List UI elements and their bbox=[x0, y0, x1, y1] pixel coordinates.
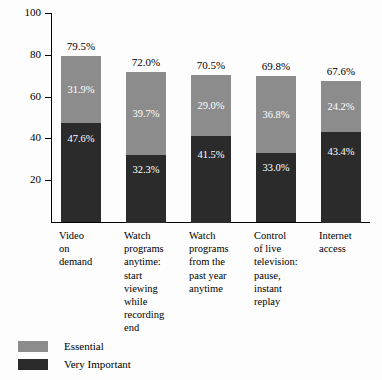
segment-value-very-important: 32.3% bbox=[126, 165, 166, 176]
category-label-line: Watch bbox=[124, 229, 184, 242]
y-axis-tick-80 bbox=[45, 55, 51, 56]
y-axis-tick-100 bbox=[45, 13, 51, 14]
legend-swatch-icon bbox=[18, 341, 48, 352]
bar-segment-essential: 29.0% bbox=[191, 75, 231, 136]
category-label-line: on bbox=[59, 242, 119, 255]
legend-item-1: Essential bbox=[18, 337, 131, 355]
category-label-4: Controlof livetelevision:pause,instantre… bbox=[254, 229, 314, 308]
bar-segment-very-important: 33.0% bbox=[256, 153, 296, 222]
bar-1: 31.9%47.6% bbox=[61, 56, 101, 222]
y-axis-tick-label-40: 40 bbox=[1, 132, 41, 143]
bar-segment-essential: 24.2% bbox=[321, 81, 361, 132]
category-label-line: Control bbox=[254, 229, 314, 242]
category-label-2: Watchprogramsanytime:startviewingwhilere… bbox=[124, 229, 184, 335]
category-label-line: programs bbox=[124, 242, 184, 255]
segment-value-essential: 29.0% bbox=[191, 100, 231, 111]
category-label-line: past year bbox=[189, 269, 249, 282]
stacked-bar-chart: 20406080100 31.9%47.6%79.5%39.7%32.3%72.… bbox=[0, 0, 382, 380]
category-label-line: end bbox=[124, 321, 184, 334]
bar-total-label-3: 70.5% bbox=[179, 60, 243, 71]
category-label-3: Watchprogramsfrom thepast yearanytime bbox=[189, 229, 249, 295]
bar-segment-essential: 31.9% bbox=[61, 56, 101, 123]
segment-value-essential: 36.8% bbox=[256, 109, 296, 120]
y-axis-tick-20 bbox=[45, 180, 51, 181]
legend-swatch-icon bbox=[18, 359, 48, 370]
category-label-line: access bbox=[319, 242, 379, 255]
y-axis-tick-label-20: 20 bbox=[1, 174, 41, 185]
bar-segment-very-important: 41.5% bbox=[191, 136, 231, 223]
y-axis-tick-60 bbox=[45, 97, 51, 98]
segment-value-very-important: 43.4% bbox=[321, 147, 361, 158]
bar-total-label-4: 69.8% bbox=[244, 61, 308, 72]
category-label-5: Internetaccess bbox=[319, 229, 379, 255]
bar-segment-essential: 36.8% bbox=[256, 76, 296, 153]
category-label-line: anytime: bbox=[124, 255, 184, 268]
category-label-line: of live bbox=[254, 242, 314, 255]
bar-segment-very-important: 47.6% bbox=[61, 123, 101, 222]
segment-value-very-important: 41.5% bbox=[191, 150, 231, 161]
bar-5: 24.2%43.4% bbox=[321, 81, 361, 222]
legend-label: Very Important bbox=[64, 359, 131, 370]
category-label-line: television: bbox=[254, 255, 314, 268]
segment-value-very-important: 47.6% bbox=[61, 134, 101, 145]
segment-value-essential: 39.7% bbox=[126, 108, 166, 119]
bar-3: 29.0%41.5% bbox=[191, 75, 231, 222]
category-label-line: pause, bbox=[254, 269, 314, 282]
category-label-line: Internet bbox=[319, 229, 379, 242]
category-label-1: Videoondemand bbox=[59, 229, 119, 269]
category-label-line: replay bbox=[254, 295, 314, 308]
bar-segment-essential: 39.7% bbox=[126, 72, 166, 155]
bar-total-label-5: 67.6% bbox=[309, 66, 373, 77]
bar-4: 36.8%33.0% bbox=[256, 76, 296, 222]
category-label-line: recording bbox=[124, 308, 184, 321]
legend-item-2: Very Important bbox=[18, 355, 131, 373]
bar-total-label-2: 72.0% bbox=[114, 57, 178, 68]
y-axis-tick-40 bbox=[45, 138, 51, 139]
segment-value-essential: 24.2% bbox=[321, 101, 361, 112]
y-axis-tick-label-100: 100 bbox=[1, 7, 41, 18]
category-label-line: viewing bbox=[124, 282, 184, 295]
chart-legend: EssentialVery Important bbox=[18, 337, 131, 373]
category-label-line: Watch bbox=[189, 229, 249, 242]
category-label-line: instant bbox=[254, 282, 314, 295]
bar-segment-very-important: 32.3% bbox=[126, 155, 166, 223]
bar-segment-very-important: 43.4% bbox=[321, 132, 361, 223]
category-label-line: Video bbox=[59, 229, 119, 242]
category-label-line: start bbox=[124, 269, 184, 282]
category-label-line: demand bbox=[59, 255, 119, 268]
category-label-line: while bbox=[124, 295, 184, 308]
y-axis-tick-label-60: 60 bbox=[1, 91, 41, 102]
bar-2: 39.7%32.3% bbox=[126, 72, 166, 222]
y-axis-tick-label-80: 80 bbox=[1, 49, 41, 60]
bar-total-label-1: 79.5% bbox=[49, 41, 113, 52]
category-label-line: from the bbox=[189, 255, 249, 268]
legend-label: Essential bbox=[64, 341, 104, 352]
segment-value-very-important: 33.0% bbox=[256, 163, 296, 174]
category-label-line: programs bbox=[189, 242, 249, 255]
category-label-line: anytime bbox=[189, 282, 249, 295]
segment-value-essential: 31.9% bbox=[61, 84, 101, 95]
